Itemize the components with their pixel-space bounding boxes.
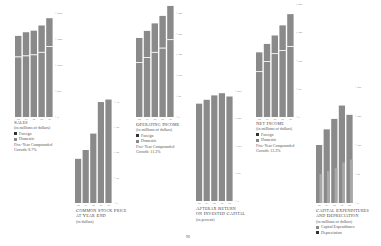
legend-label: Domestic <box>261 137 276 142</box>
bar-foreign <box>46 18 52 46</box>
legend-label: Depreciation <box>321 230 342 235</box>
legend-swatch <box>256 139 259 142</box>
y-tick-label: 0 <box>179 116 181 118</box>
caption-capex: Capital Expenditures and Depreciation (i… <box>316 208 369 235</box>
caption-operating-income: Operating Income (in millions of dollars… <box>136 122 180 154</box>
bar-divider <box>31 55 37 56</box>
bar-divider <box>23 56 29 57</box>
legend-swatch <box>14 138 17 141</box>
legend-label: Foreign <box>141 133 153 138</box>
bar-domestic <box>272 54 278 117</box>
bar-divider <box>272 53 278 54</box>
bar-domestic <box>264 62 270 117</box>
x-tick-label: '86 <box>281 118 285 120</box>
bar-divider <box>144 57 150 58</box>
x-tick-label: '84 <box>325 204 329 206</box>
x-tick-label: '85 <box>333 204 337 206</box>
bar <box>226 97 232 202</box>
x-tick-label: '86 <box>340 204 344 206</box>
legend-swatch <box>256 133 259 136</box>
legend-swatch <box>14 132 17 135</box>
growth-value: Growth: 13.3% <box>256 148 294 153</box>
bar-foreign <box>152 23 158 52</box>
y-tick-label: 20 <box>117 151 120 153</box>
bar-divider <box>46 46 52 47</box>
bar-divider <box>38 52 44 53</box>
y-tick-label: 150 <box>358 115 362 117</box>
bar <box>98 102 104 203</box>
bar <box>75 159 81 203</box>
x-tick-label: '85 <box>153 118 157 120</box>
x-tick-label: '86 <box>161 118 165 120</box>
bar-domestic <box>38 53 44 117</box>
bar-divider <box>167 39 173 40</box>
bar-divider <box>279 50 285 51</box>
caption-net-income: Net Income (in millions of dollars) Fore… <box>256 121 294 153</box>
bar-foreign <box>264 44 270 61</box>
y-tick-label: 0 <box>58 116 60 118</box>
y-tick-label: 200 <box>358 86 362 88</box>
y-tick-label: 200 <box>299 3 303 5</box>
bar-depreciation <box>350 160 353 204</box>
y-tick-label: 100 <box>179 74 183 76</box>
bar-depreciation <box>335 168 338 203</box>
x-tick-label: '85 <box>213 202 217 204</box>
x-tick-label: '86 <box>99 204 103 206</box>
bar <box>90 134 96 203</box>
bar-domestic <box>15 57 21 117</box>
x-tick-label: '87 <box>169 118 173 120</box>
legend-swatch <box>316 226 319 229</box>
legend-swatch <box>136 134 139 137</box>
y-tick-label: 100 <box>299 60 303 62</box>
x-tick-label: '84 <box>205 202 209 204</box>
x-tick-label: '87 <box>107 204 111 206</box>
y-tick-label: 20.0 <box>238 90 243 92</box>
bar <box>196 104 202 201</box>
x-tick-label: '83 <box>77 204 81 206</box>
legend-swatch <box>136 140 139 143</box>
bar-foreign <box>159 16 165 48</box>
bar-domestic <box>152 53 158 117</box>
y-tick-label: 50 <box>358 173 361 175</box>
bar-divider <box>159 48 165 49</box>
bar-foreign <box>136 38 142 62</box>
y-tick-label: 1000 <box>58 64 64 66</box>
y-tick-label: 200 <box>179 33 183 35</box>
y-tick-label: 2000 <box>58 12 64 14</box>
bar <box>83 150 89 203</box>
bar-domestic <box>31 55 37 117</box>
caption-stock-price: Common Stock Price at Year End (in dolla… <box>76 208 127 224</box>
bar-divider <box>264 61 270 62</box>
y-tick-label: 10 <box>117 177 120 179</box>
bar <box>204 100 210 201</box>
x-tick-label: '87 <box>348 204 352 206</box>
bar-divider <box>15 57 21 58</box>
y-tick-label: 500 <box>58 90 62 92</box>
bar-foreign <box>144 31 150 57</box>
bar-domestic <box>46 47 52 117</box>
legend-label: Domestic <box>141 138 156 143</box>
x-tick-label: '84 <box>84 204 88 206</box>
y-tick-label: 0 <box>117 202 119 204</box>
bar-domestic <box>279 51 285 117</box>
y-tick-label: 150 <box>179 53 183 55</box>
legend-label: Foreign <box>19 131 31 136</box>
x-tick-label: '83 <box>258 118 262 120</box>
bar-domestic <box>144 58 150 117</box>
bar <box>219 93 225 201</box>
x-tick-label: '87 <box>289 118 293 120</box>
y-tick-label: 15.0 <box>238 117 243 119</box>
bar-depreciation <box>327 171 330 203</box>
y-tick-label: 1500 <box>58 38 64 40</box>
chart-subtitle: (in dollars) <box>76 219 127 224</box>
y-tick-label: 50 <box>299 88 302 90</box>
y-tick-label: 250 <box>179 12 183 14</box>
x-tick-label: '84 <box>266 118 270 120</box>
bar <box>105 100 111 203</box>
bar-foreign <box>38 25 44 51</box>
bar-divider <box>256 71 262 72</box>
legend-swatch <box>316 231 319 234</box>
bar-domestic <box>256 72 262 117</box>
y-tick-label: 150 <box>299 31 303 33</box>
growth-value: Growth: 8.7% <box>14 147 52 152</box>
